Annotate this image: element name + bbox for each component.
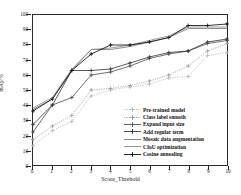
x-tick-label: 8 [179,168,199,174]
y-tick-label: 50 [6,87,28,93]
legend-label: Expand input size [143,121,184,127]
legend-label: Cosine annealing [143,151,182,157]
chart-legend: Pre-trained modelClass label smoothExpan… [122,104,230,160]
data-point-marker [206,49,210,53]
legend-swatch-icon [124,128,141,135]
data-point-marker [89,88,93,92]
data-point-marker [186,64,190,68]
y-tick-label: 80 [6,41,28,47]
x-tick-label: 5 [120,168,140,174]
x-tick-label: 2 [61,168,81,174]
y-tick-label: 20 [6,133,28,139]
data-point-marker [206,54,210,58]
data-point-marker [225,51,229,55]
legend-item-6[interactable]: Cosine annealing [124,150,228,157]
legend-item-3[interactable]: Add regular term [124,128,228,135]
data-point-marker [167,73,171,77]
data-point-marker [225,22,229,26]
data-point-marker [89,69,93,73]
legend-label: Class label smooth [143,114,186,120]
x-tick-label: 7 [159,168,179,174]
x-tick-label: 1 [42,168,62,174]
data-point-marker [31,144,35,148]
legend-item-5[interactable]: CIoU optimization [124,143,228,150]
legend-label: Mosaic data augmentation [143,136,204,142]
data-point-marker [109,43,113,47]
data-point-marker [186,49,190,53]
legend-swatch-icon [124,143,141,150]
series-line-4 [33,29,227,110]
y-tick-label: 10 [6,148,28,154]
data-point-marker [31,109,35,113]
y-tick-label: 100 [6,11,28,17]
data-point-marker [31,138,35,142]
data-point-marker [128,61,132,65]
data-point-marker [148,79,152,83]
y-tick-label: 90 [6,26,28,32]
legend-item-4[interactable]: Mosaic data augmentation [124,136,228,143]
legend-swatch-icon [124,106,141,113]
x-tick-label: 4 [100,168,120,174]
x-tick-label: 9 [198,168,218,174]
data-point-marker [51,129,55,133]
legend-item-2[interactable]: Expand input size [124,121,228,128]
legend-swatch-icon [124,121,141,128]
y-tick-label: 30 [6,117,28,123]
x-tick-label: 0 [22,168,42,174]
y-axis-title: mAp/% [0,74,4,91]
x-tick-label: 10 [218,168,238,174]
legend-label: CIoU optimization [143,144,186,150]
legend-label: Add regular term [143,129,184,135]
legend-swatch-icon [124,151,141,158]
y-tick-label: 40 [6,102,28,108]
y-tick-label: 70 [6,57,28,63]
x-tick-label: 6 [140,168,160,174]
y-tick-label: 60 [6,72,28,78]
legend-swatch-icon [124,136,141,143]
legend-item-1[interactable]: Class label smooth [124,113,228,120]
x-axis-title: Score_Threhold [0,176,241,182]
data-point-marker [109,67,113,71]
x-tick-label: 3 [81,168,101,174]
legend-item-0[interactable]: Pre-trained model [124,106,228,113]
legend-swatch-icon [124,114,141,121]
chart-container: mAp/% 0102030405060708090100 01234567891… [0,0,241,195]
legend-label: Pre-trained model [143,107,185,113]
